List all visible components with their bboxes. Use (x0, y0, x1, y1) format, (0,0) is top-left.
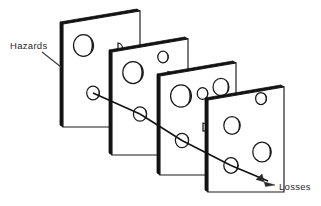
losses-label: Losses (279, 181, 311, 192)
slice-4-hole-middle-right (253, 142, 271, 162)
hazards-label: Hazards (10, 40, 47, 51)
slice-4-face (208, 87, 284, 192)
barrier-slice-4 (205, 85, 284, 192)
slice-1-hole-upper-left (74, 35, 94, 57)
slice-3-hole-upper-right (213, 78, 229, 95)
swiss-cheese-diagram: Hazards Losses (0, 0, 321, 206)
slice-4-hole-middle-left (224, 117, 240, 135)
hazards-leader (42, 52, 61, 67)
slice-4-hole-upper-right (256, 93, 267, 105)
slice-2-hole-upper-left (123, 62, 143, 84)
slice-3-hole-upper-left (171, 85, 192, 107)
slice-2-hole-upper-right (158, 51, 169, 63)
diagram-canvas: Hazards Losses (0, 0, 321, 206)
